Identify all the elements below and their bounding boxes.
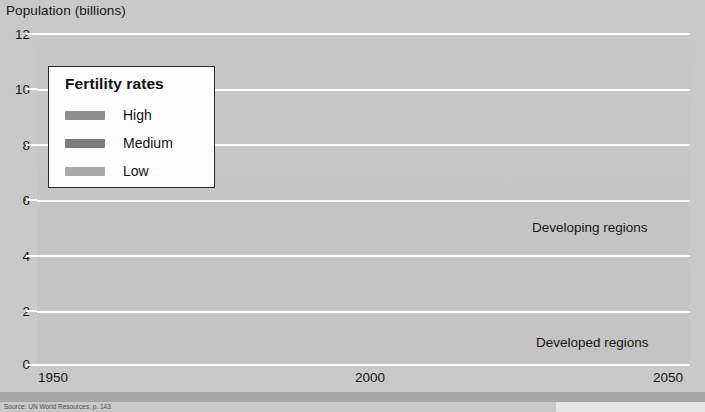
y-tick-mark-8: [26, 144, 37, 146]
source-note: Source: UN World Resources, p. 143: [4, 403, 111, 410]
y-tick-mark-0: [26, 364, 37, 366]
y-tick-mark-10: [26, 88, 37, 90]
gridline-6: [37, 200, 690, 202]
x-tick-label-2050: 2050: [653, 371, 683, 385]
x-tick-label-2000: 2000: [355, 371, 385, 385]
developed-regions-label: Developed regions: [536, 335, 649, 350]
legend-swatch-medium: [65, 139, 105, 148]
population-projection-chart: Population (billions) 12 10 8 6 4 2 0: [0, 0, 705, 412]
y-tick-mark-2: [26, 310, 37, 312]
x-axis-line: [37, 364, 690, 366]
legend: Fertility rates High Medium Low: [48, 66, 215, 188]
footer-right-block: [556, 402, 705, 412]
legend-title: Fertility rates: [65, 75, 164, 93]
axis-title: Population (billions): [6, 3, 126, 18]
legend-label-high: High: [123, 107, 152, 123]
legend-swatch-low: [65, 167, 105, 176]
y-tick-mark-4: [26, 255, 37, 257]
legend-label-low: Low: [123, 163, 149, 179]
gridline-12: [37, 33, 690, 35]
x-tick-label-1950: 1950: [38, 371, 68, 385]
gridline-2: [37, 311, 690, 313]
gridline-4: [37, 255, 690, 257]
y-tick-mark-12: [26, 33, 37, 35]
footer-bar: [0, 392, 705, 402]
legend-swatch-high: [65, 111, 105, 120]
y-tick-mark-6: [26, 199, 37, 201]
developing-regions-label: Developing regions: [532, 220, 648, 235]
legend-label-medium: Medium: [123, 135, 173, 151]
